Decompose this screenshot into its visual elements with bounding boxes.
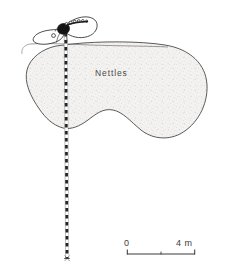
nettles-patch-label: Nettles [95,68,128,78]
insect-left-eye-circle [52,34,56,38]
scale-bar-end-label: 4 m [176,238,193,248]
figure-root: Nettles 0 4 m [0,0,225,277]
scale-bar [127,250,195,255]
field-sketch-map [0,0,225,277]
scale-bar-start-label: 0 [124,238,130,248]
tendril-hook [22,44,30,54]
